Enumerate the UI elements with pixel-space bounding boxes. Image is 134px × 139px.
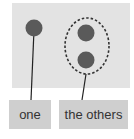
connector-others: [82, 74, 86, 100]
label-one: one: [9, 100, 51, 129]
label-the-others: the others: [59, 100, 128, 129]
connector-one: [31, 30, 34, 100]
single-dot: [26, 20, 43, 37]
group-dot-top: [78, 25, 95, 42]
group-dot-bottom: [78, 52, 95, 69]
